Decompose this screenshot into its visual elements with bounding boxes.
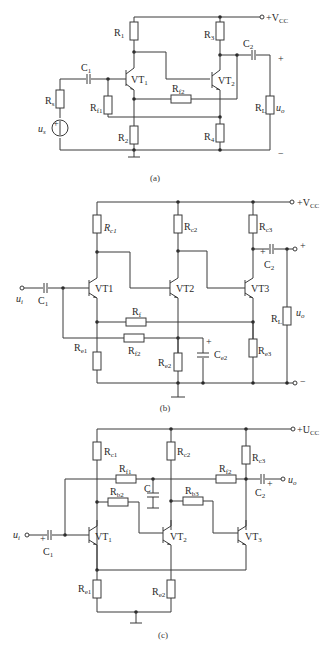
resistor-rc2 bbox=[167, 442, 175, 460]
re2-label: Re2 bbox=[158, 357, 172, 370]
uo-label: uo bbox=[276, 102, 285, 115]
output-terminal bbox=[281, 477, 285, 481]
rc3-label: Rc3 bbox=[252, 452, 266, 465]
resistor-rf1 bbox=[116, 475, 136, 483]
resistor-rf bbox=[126, 318, 146, 326]
vt3-label: VT3 bbox=[251, 283, 269, 294]
resistor-rf2 bbox=[216, 475, 236, 483]
rb2-label: Rb2 bbox=[110, 486, 124, 499]
figure-c: +UCC Rc1 Rc2 Rc3 Rf1 Rf2 C + C2 uo R bbox=[13, 424, 320, 640]
resistor-rf2 bbox=[171, 95, 191, 103]
re3-label: Re3 bbox=[258, 345, 272, 358]
r2-label: R2 bbox=[118, 132, 129, 145]
vcc-terminal bbox=[260, 15, 264, 19]
vt3-label: VT3 bbox=[245, 531, 262, 544]
vt1-label: VT1 bbox=[95, 283, 113, 294]
r1-label: R1 bbox=[114, 27, 125, 40]
resistor-rb2 bbox=[108, 498, 128, 506]
rc2-label: Rc2 bbox=[184, 221, 198, 234]
transistor-vt2 bbox=[161, 520, 171, 580]
transistor-vt1 bbox=[89, 520, 97, 570]
rf2-label: Rf2 bbox=[219, 463, 232, 476]
resistor-r4 bbox=[216, 124, 224, 142]
re1-label: Re1 bbox=[74, 342, 88, 355]
rc1-label: Rc1 bbox=[103, 222, 117, 235]
input-terminal bbox=[20, 286, 24, 290]
ce2-plus: + bbox=[206, 336, 212, 347]
resistor-rl bbox=[283, 307, 291, 325]
c1-label: C1 bbox=[81, 62, 92, 75]
capacitor-c1 bbox=[44, 283, 47, 293]
rf1-label: Rf1 bbox=[90, 102, 103, 115]
vt1-label: VT1 bbox=[95, 531, 112, 544]
capacitor-ce2 bbox=[197, 353, 209, 357]
resistor-r3 bbox=[216, 22, 224, 40]
resistor-rl bbox=[266, 96, 274, 114]
rl-label: RL bbox=[255, 102, 266, 115]
resistor-r2 bbox=[130, 126, 138, 144]
c2-label: C2 bbox=[264, 259, 275, 272]
c2-plus: + bbox=[260, 246, 266, 257]
resistor-re1 bbox=[93, 580, 101, 598]
resistor-rc3 bbox=[242, 446, 250, 464]
output-plus: + bbox=[300, 240, 306, 251]
rl-label: RL bbox=[271, 313, 282, 326]
r4-label: R4 bbox=[204, 131, 215, 144]
output-minus: − bbox=[300, 376, 306, 387]
resistor-re3 bbox=[249, 339, 257, 357]
ground-icon bbox=[128, 150, 140, 157]
resistor-rc2 bbox=[174, 215, 182, 233]
ui-label: ui bbox=[13, 529, 20, 542]
output-plus: + bbox=[278, 53, 284, 64]
resistor-rf2 bbox=[124, 334, 144, 342]
us-label: us bbox=[38, 123, 46, 136]
capacitor-c1 bbox=[48, 530, 51, 540]
resistor-rb3 bbox=[183, 497, 203, 505]
resistor-re2 bbox=[174, 353, 182, 371]
rc2-label: Rc2 bbox=[177, 446, 191, 459]
ce2-label: Ce2 bbox=[214, 349, 228, 362]
c-label: C bbox=[144, 483, 151, 494]
output-minus: − bbox=[278, 148, 284, 159]
resistor-rc3 bbox=[249, 215, 257, 233]
ui-label: ui bbox=[16, 293, 23, 306]
vt2-label: VT2 bbox=[170, 531, 187, 544]
rf2-label: Rf2 bbox=[172, 83, 185, 96]
caption-a: (a) bbox=[150, 173, 160, 183]
c2-label: C2 bbox=[255, 487, 266, 500]
vt1-label: VT1 bbox=[131, 74, 148, 87]
uo-label: uo bbox=[288, 474, 297, 487]
rs-label: Rs bbox=[45, 95, 55, 108]
r3-label: R3 bbox=[204, 29, 215, 42]
resistor-re1 bbox=[93, 352, 101, 370]
figure-a: +VCC R1 VT1 R3 VT2 C2 + RL uo − bbox=[38, 12, 289, 183]
c2-plus: + bbox=[267, 478, 273, 489]
re1-label: Re1 bbox=[78, 583, 92, 596]
resistor-rc1 bbox=[93, 442, 101, 460]
vt2-label: VT2 bbox=[176, 283, 194, 294]
rf-label: Rf bbox=[132, 306, 142, 319]
rc3-label: Rc3 bbox=[259, 221, 273, 234]
transistor-vt3 bbox=[243, 249, 253, 347]
resistor-re2 bbox=[167, 580, 175, 598]
figure-b: +VCC Rc1 Rc2 Rc3 VT1 VT2 VT3 ui C1 bbox=[16, 197, 320, 413]
caption-c: (c) bbox=[158, 630, 168, 640]
c1-label: C1 bbox=[43, 546, 54, 559]
capacitor-c2 bbox=[270, 244, 273, 254]
re2-label: Re2 bbox=[152, 586, 166, 599]
resistor-rs bbox=[56, 90, 64, 108]
vcc-label: +VCC bbox=[266, 12, 289, 25]
source-plus: + bbox=[53, 118, 59, 129]
circuit-figures: +VCC R1 VT1 R3 VT2 C2 + RL uo − bbox=[0, 0, 333, 654]
capacitor-c1 bbox=[87, 74, 90, 84]
c1-label: C1 bbox=[38, 295, 49, 308]
transistor-vt2 bbox=[168, 251, 178, 355]
capacitor-c2 bbox=[252, 50, 255, 60]
ucc-terminal bbox=[291, 427, 295, 431]
vcc-terminal bbox=[290, 200, 294, 204]
c1-plus: + bbox=[40, 533, 46, 544]
vcc-label: +VCC bbox=[297, 197, 320, 210]
ground-icon bbox=[171, 383, 185, 397]
c2-label: C2 bbox=[243, 38, 254, 51]
resistor-rc1 bbox=[93, 215, 101, 233]
